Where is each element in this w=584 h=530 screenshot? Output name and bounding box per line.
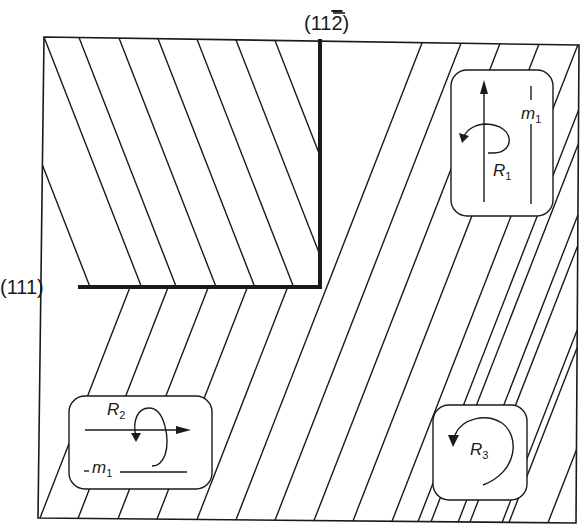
plane-label-111: (111): [0, 276, 44, 298]
inset-rotation-r2: m1 R2: [69, 396, 212, 489]
hatch-line-lower: [236, 43, 422, 520]
hatch-line-upper: [236, 40, 320, 255]
twin-boundary-diagram: (112) (111) m1 R1 m1 R2 R3: [0, 0, 584, 530]
inset-rotation-r3: R3: [433, 405, 527, 500]
hatch-line-lower: [548, 450, 577, 523]
hatch-line-upper: [119, 38, 216, 287]
plane-label-11-2: (112): [304, 12, 349, 34]
hatch-line-upper: [197, 39, 294, 287]
inset-box: [451, 70, 553, 216]
hatch-line-lower: [197, 287, 288, 520]
hatch-line-upper: [42, 165, 90, 287]
hatch-line-upper: [158, 39, 255, 287]
inset-rotation-r1: m1 R1: [451, 70, 553, 216]
inset-box: [69, 396, 212, 489]
hatch-line-upper: [275, 41, 320, 156]
